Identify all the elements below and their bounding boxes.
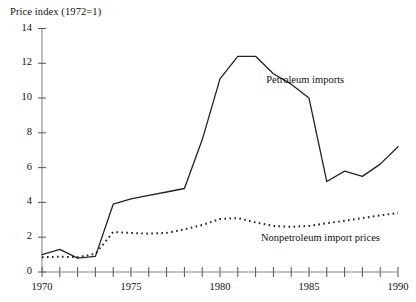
series-line-0 [42, 56, 398, 258]
x-axis-ticks [42, 267, 398, 277]
data-series-group [42, 56, 398, 258]
series-label-0: Petroleum imports [266, 74, 344, 85]
y-tick-label-8: 8 [10, 126, 32, 137]
x-tick-label-1985: 1985 [289, 281, 329, 292]
y-tick-label-10: 10 [10, 91, 32, 102]
y-tick-label-4: 4 [10, 195, 32, 206]
x-tick-label-1970: 1970 [22, 281, 62, 292]
y-tick-label-2: 2 [10, 230, 32, 241]
chart-plot-area [0, 0, 416, 302]
y-tick-label-14: 14 [10, 22, 32, 33]
x-tick-label-1975: 1975 [111, 281, 151, 292]
chart-figure: Price index (1972=1) 0246810121419701975… [0, 0, 416, 302]
x-tick-label-1980: 1980 [200, 281, 240, 292]
x-tick-label-1990: 1990 [378, 281, 416, 292]
y-tick-label-0: 0 [10, 265, 32, 276]
y-tick-label-12: 12 [10, 56, 32, 67]
series-label-1: Nonpetroleum import prices [261, 232, 380, 243]
y-tick-label-6: 6 [10, 161, 32, 172]
